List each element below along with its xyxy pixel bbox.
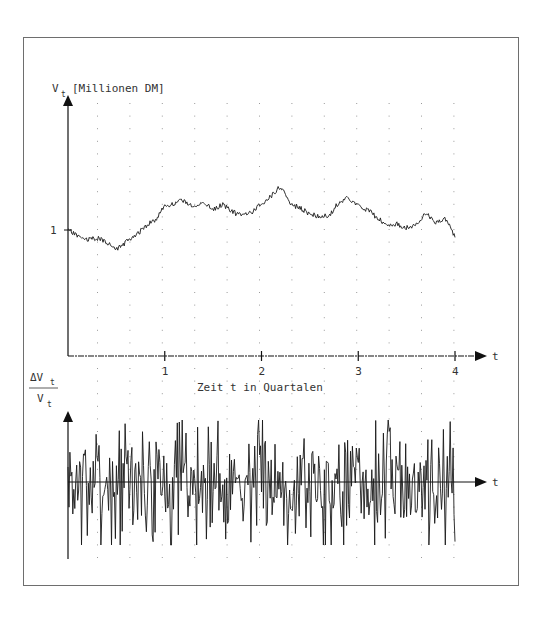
lower-x-axis-symbol: t (492, 476, 499, 489)
lower-plot: ΔV t V t t (29, 371, 499, 559)
upper-x-ticks: 1234 (162, 351, 459, 378)
lower-y-label-num-subscript: t (50, 378, 55, 387)
lower-y-label-denominator: V (37, 392, 44, 405)
upper-y-axis-unit: [Millionen DM] (72, 82, 165, 95)
figure-canvas: t 1234 1 V t [Millionen DM] Zeit t in Qu… (0, 0, 547, 625)
lower-y-label-den-subscript: t (47, 400, 52, 409)
lower-y-label-numerator: ΔV (30, 371, 44, 384)
x-axis-title: Zeit t in Quartalen (197, 381, 323, 394)
x-tick-label: 4 (452, 365, 459, 378)
upper-y-tick-label: 1 (50, 224, 57, 237)
x-tick-label: 3 (355, 365, 362, 378)
x-tick-label: 1 (162, 365, 169, 378)
upper-x-arrow-icon (475, 351, 487, 361)
upper-y-axis-label: V (52, 82, 59, 95)
upper-x-axis-symbol: t (492, 350, 499, 363)
lower-y-arrow-icon (63, 411, 73, 422)
lower-x-arrow-icon (475, 477, 487, 487)
upper-y-axis-subscript: t (61, 90, 66, 99)
upper-plot: t 1234 1 V t [Millionen DM] Zeit t in Qu… (50, 82, 499, 394)
x-tick-label: 2 (259, 365, 266, 378)
value-series-line (68, 187, 455, 251)
